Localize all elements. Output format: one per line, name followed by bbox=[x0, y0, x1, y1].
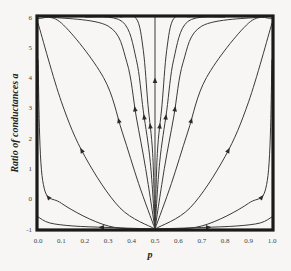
x-tick-label: 0.8 bbox=[221, 237, 230, 245]
x-tick-label: 0.6 bbox=[174, 237, 183, 245]
y-axis-label: Ratio of conductances a bbox=[9, 73, 20, 173]
arrow-icon bbox=[225, 147, 232, 154]
x-tick-label: 0.4 bbox=[127, 237, 136, 245]
y-tick-label: -1 bbox=[26, 226, 32, 234]
y-tick-label: 4 bbox=[29, 74, 33, 82]
flow-lines bbox=[38, 16, 272, 229]
arrow-icon bbox=[258, 193, 265, 200]
y-tick-label: 2 bbox=[29, 135, 33, 143]
x-axis-label: p bbox=[147, 249, 153, 260]
x-tick-label: 0.3 bbox=[104, 237, 113, 245]
arrow-icon bbox=[188, 117, 194, 124]
x-tick-label: 0.5 bbox=[151, 237, 160, 245]
x-tick-label: 0.9 bbox=[244, 237, 253, 245]
flow-line bbox=[155, 17, 260, 229]
flow-line bbox=[50, 17, 155, 229]
y-tick-label: 3 bbox=[29, 104, 33, 112]
x-tick-label: 0.0 bbox=[34, 237, 43, 245]
arrow-icon bbox=[116, 117, 122, 124]
flow-diagram-chart: -10123456 0.00.10.20.30.40.50.60.70.80.9… bbox=[0, 0, 291, 271]
arrow-icon bbox=[153, 78, 158, 84]
arrow-icon bbox=[78, 147, 85, 154]
x-axis-ticks: 0.00.10.20.30.40.50.60.70.80.91.0 bbox=[34, 237, 277, 245]
arrow-icon bbox=[157, 123, 162, 129]
x-tick-label: 0.7 bbox=[197, 237, 206, 245]
y-axis-ticks: -10123456 bbox=[26, 14, 32, 234]
x-tick-label: 0.2 bbox=[80, 237, 89, 245]
y-tick-label: 5 bbox=[29, 44, 33, 52]
y-tick-label: 6 bbox=[29, 14, 33, 22]
arrow-icon bbox=[45, 193, 52, 200]
flow-line bbox=[155, 217, 272, 229]
y-tick-label: 0 bbox=[29, 195, 33, 203]
x-tick-label: 1.0 bbox=[268, 237, 277, 245]
arrow-icon bbox=[148, 123, 153, 129]
x-tick-label: 0.1 bbox=[57, 237, 66, 245]
flow-line bbox=[38, 217, 155, 229]
y-tick-label: 1 bbox=[29, 165, 33, 173]
